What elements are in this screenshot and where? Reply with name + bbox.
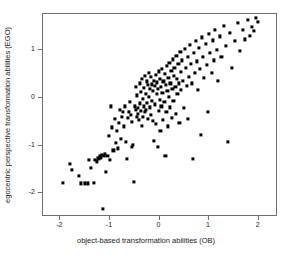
data-point: [113, 117, 116, 120]
data-point: [175, 77, 178, 80]
data-point: [186, 55, 189, 58]
data-point: [141, 97, 144, 100]
data-point: [155, 81, 158, 84]
data-point: [170, 69, 173, 72]
data-point: [160, 67, 163, 70]
data-point: [157, 110, 160, 113]
data-point: [159, 130, 162, 133]
data-point: [139, 110, 142, 113]
data-point: [198, 46, 201, 49]
data-point: [92, 181, 95, 184]
data-point: [69, 162, 72, 165]
data-point: [154, 122, 157, 125]
data-point: [149, 75, 152, 78]
data-point: [119, 137, 122, 140]
data-point: [109, 105, 112, 108]
data-point: [202, 55, 205, 58]
data-point: [243, 38, 246, 41]
data-point: [142, 115, 145, 118]
data-point: [179, 50, 182, 53]
data-point: [106, 154, 109, 157]
data-point: [116, 147, 119, 150]
data-point: [195, 40, 198, 43]
data-point: [171, 58, 174, 61]
data-point: [125, 157, 128, 160]
data-point: [132, 144, 135, 147]
data-point: [205, 64, 208, 67]
x-axis-title: object-based transformation abilities (O…: [0, 236, 292, 245]
data-point: [168, 62, 171, 65]
data-point: [196, 60, 199, 63]
data-point: [148, 106, 151, 109]
data-point: [238, 49, 241, 52]
data-point: [145, 80, 148, 83]
data-point: [110, 126, 113, 129]
data-point: [70, 168, 73, 171]
data-point: [180, 88, 183, 91]
data-point: [121, 111, 124, 114]
data-point: [112, 149, 115, 152]
data-point: [88, 158, 91, 161]
data-point: [61, 181, 64, 184]
data-point: [120, 115, 123, 118]
y-tick: [38, 192, 42, 193]
data-point: [150, 99, 153, 102]
data-point: [147, 71, 150, 74]
data-point: [218, 35, 221, 38]
data-point: [189, 44, 192, 47]
data-point: [208, 51, 211, 54]
data-point: [174, 112, 177, 115]
data-point: [213, 28, 216, 31]
data-point: [185, 66, 188, 69]
data-point: [169, 82, 172, 85]
data-point: [228, 31, 231, 34]
y-axis-title-text: egocentric perspective transformation ab…: [3, 27, 12, 203]
plot-area: [42, 13, 277, 216]
data-point: [108, 158, 111, 161]
data-point: [206, 111, 209, 114]
data-point: [190, 63, 193, 66]
data-point: [177, 63, 180, 66]
data-point: [101, 208, 104, 211]
x-tick: [109, 216, 110, 220]
data-point: [139, 102, 142, 105]
data-points-layer: [43, 14, 276, 215]
data-point: [241, 28, 244, 31]
data-point: [184, 47, 187, 50]
data-point: [194, 71, 197, 74]
data-point: [137, 118, 140, 121]
data-point: [230, 66, 233, 69]
data-point: [78, 174, 81, 177]
data-point: [126, 116, 129, 119]
data-point: [163, 100, 166, 103]
x-tick: [208, 216, 209, 220]
data-point: [176, 92, 179, 95]
data-point: [224, 44, 227, 47]
y-tick-label: -1: [29, 141, 35, 149]
data-point: [226, 140, 229, 143]
x-tick-label: -2: [56, 221, 62, 229]
data-point: [166, 125, 169, 128]
data-point: [130, 120, 133, 123]
data-point: [211, 39, 214, 42]
data-point: [210, 71, 213, 74]
y-tick-label: 1: [31, 45, 35, 53]
data-point: [134, 86, 137, 89]
data-point: [128, 100, 131, 103]
data-point: [207, 32, 210, 35]
data-point: [147, 117, 150, 120]
data-point: [140, 90, 143, 93]
data-point: [216, 79, 219, 82]
data-point: [132, 180, 135, 183]
data-point: [233, 40, 236, 43]
data-point: [140, 124, 143, 127]
data-point: [123, 105, 126, 108]
data-point: [104, 170, 107, 173]
data-point: [256, 21, 259, 24]
data-point: [142, 87, 145, 90]
data-point: [147, 95, 150, 98]
x-tick-label: 0: [157, 221, 161, 229]
data-point: [173, 66, 176, 69]
x-tick-label: 1: [206, 221, 210, 229]
data-point: [201, 36, 204, 39]
